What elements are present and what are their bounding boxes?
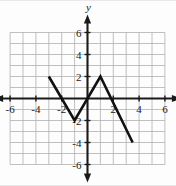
y-axis-tick-label: 6 [76, 27, 82, 39]
y-axis-arrow-up [84, 15, 91, 24]
y-axis-tick-label: 4 [76, 49, 82, 61]
x-axis-arrow-left [0, 95, 3, 102]
y-axis-tick-label: -4 [72, 137, 82, 149]
y-axis-arrow-down [84, 174, 91, 183]
x-axis-tick-label: -6 [6, 103, 16, 115]
x-axis-tick-label: -4 [31, 103, 41, 115]
x-axis-arrow-right [172, 95, 176, 102]
x-axis-tick-label: 6 [162, 103, 168, 115]
graph-canvas: -6-4-2246642-2-4-6xy [0, 0, 176, 186]
x-axis-tick-label: 4 [136, 103, 142, 115]
y-axis-name-label: y [85, 1, 91, 13]
y-axis-tick-label: 2 [76, 71, 82, 83]
y-axis-tick-label: -6 [72, 159, 82, 171]
coordinate-plane-figure: -6-4-2246642-2-4-6xy [0, 0, 176, 186]
